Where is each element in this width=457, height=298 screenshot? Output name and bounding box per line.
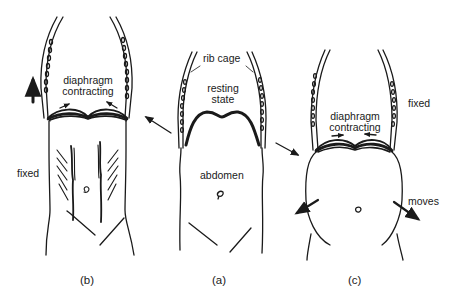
panel-c-diaphragm (316, 140, 392, 152)
diaphragm-arrow-left (332, 135, 343, 136)
diaphragm-arrow-right (365, 134, 376, 135)
diagram-drawing (0, 0, 457, 298)
panel-c-abdomen (306, 152, 403, 260)
panel-c-fixed-label: fixed (408, 98, 430, 109)
panel-a-caption: (a) (212, 274, 226, 286)
diaphragm-arrow-right (107, 102, 117, 108)
panel-b-caption: (b) (80, 274, 94, 286)
panel-a-diaphragm-dome (186, 112, 259, 145)
diaphragm-arrow-left (60, 104, 69, 108)
panel-c-caption: (c) (348, 274, 361, 286)
rib-cage-label: rib cage (203, 53, 240, 64)
panel-c-moves-label: moves (408, 196, 439, 207)
breathing-mechanics-diagram: diaphragm contracting fixed (b) rib cage… (0, 0, 457, 298)
rib-cage-leader-right (246, 66, 253, 72)
abdomen-label: abdomen (200, 170, 244, 181)
panel-b-figure (33, 17, 134, 255)
panel-b-state-label: diaphragm contracting (58, 75, 118, 97)
panel-b-right-rib (110, 17, 132, 118)
connector-arrow-a-to-b (146, 117, 171, 133)
panel-c-state-line2: contracting (325, 122, 385, 133)
panel-a-state-line2: state (198, 94, 248, 105)
connector-arrow-a-to-c (276, 143, 298, 155)
panel-a-state-label: resting state (198, 83, 248, 105)
panel-c-left-rib (311, 50, 330, 150)
panel-b-abdomen (46, 121, 134, 255)
panel-b-left-rib (41, 17, 63, 118)
panel-c-right-rib (378, 50, 397, 150)
panel-b-abdominal-muscles (57, 142, 118, 222)
panel-b-fixed-label: fixed (17, 168, 39, 179)
panel-c-state-label: diaphragm contracting (325, 111, 385, 133)
rib-cage-leader-left (191, 66, 200, 72)
panel-a-abdomen (180, 148, 264, 253)
panel-c-figure (297, 50, 418, 260)
panel-b-state-line2: contracting (58, 86, 118, 97)
panel-b-diaphragm (48, 110, 127, 121)
